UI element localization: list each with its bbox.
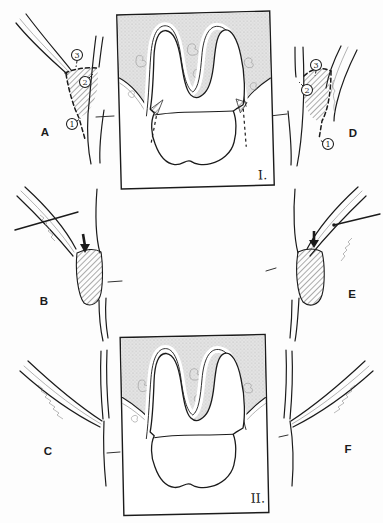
soft-tissue-outline-lower [106,298,108,338]
panel-label-f: F [344,443,351,455]
figure-label-1: I. [258,167,268,182]
panel-e: E [266,187,380,341]
marker-number: 2 [304,86,309,95]
panel-f: F [279,350,373,486]
marker-number: 1 [325,140,330,149]
panel-label-e: E [348,288,356,300]
root-pointer-line [108,281,122,282]
bone-defect-hatched [66,68,98,117]
lamina-dura-line [331,47,348,93]
root-pointer-line [96,116,114,117]
marker-number: 3 [313,61,318,70]
soft-tissue-outline-lower [288,111,291,165]
root-surface-below-crest [290,421,293,486]
molar-root-surface [294,189,298,253]
gingiva-outline [20,371,100,427]
instrument-tip [332,223,336,227]
figure-label-2: II. [250,491,265,506]
soft-tissue-outline-lower [100,110,104,163]
pdl-outline-upper [295,47,296,77]
down-arrow-icon [309,231,319,248]
lamina-dura-line [20,19,69,72]
gingiva-outline [293,371,373,427]
lamina-dura-line [21,191,74,252]
marker-leader-line [320,140,323,142]
marker-number: 1 [69,120,74,129]
panel-label-b: B [40,295,48,307]
molar-root-surface [290,351,292,419]
pdl-outline-upper [99,37,103,67]
root-pointer-line [107,452,120,453]
panel-label-a: A [41,126,49,138]
panel-label-c: C [44,445,52,457]
marker-circle-1: 1 [320,139,334,150]
framed-image-1: I. [117,11,275,189]
marker-number: 2 [82,78,87,87]
molar-root-surface [101,351,103,419]
lamina-dura-line [292,366,369,424]
root-pointer-line [266,268,276,271]
instrument-line [15,212,78,230]
root-pointer-line [279,435,288,437]
bone-defect-hatched [297,249,325,305]
bone-defect-hatched [76,249,102,305]
marker-leader-line [76,61,77,67]
adjacent-tooth-mesial-outline [291,361,365,421]
root-surface-below-defect [295,298,299,341]
instrument-line [334,214,380,225]
lamina-dura-line [24,366,101,424]
panel-d: 3 2 1 D [270,46,357,166]
marker-number: 3 [74,51,79,60]
molar-root-surface [297,47,304,166]
panel-c: C [20,350,120,486]
dental-osseous-defect-figure: 3 2 1 A 3 2 [0,0,383,523]
gingiva-outline [310,196,366,256]
adjacent-tooth-distal-outline [16,23,67,74]
soft-tissue-outline-lower [290,300,292,338]
root-surface-below-defect [99,300,103,341]
panel-b: B [15,187,122,341]
root-surface-below-crest [104,421,106,486]
framed-image-2: II. [120,334,269,515]
marker-leader-line [299,82,303,86]
panel-a: 3 2 1 A [16,14,114,164]
pdl-outline [107,350,109,418]
molar-root-surface [96,189,100,253]
marker-circle-3: 3 [72,50,83,68]
lamina-dura-zigzag [332,80,335,113]
adjacent-tooth-distal-outline [25,187,76,249]
panel-label-d: D [349,127,357,139]
marker-circle-1: 1 [67,118,82,130]
adjacent-tooth-distal-outline [28,361,102,421]
gingiva-outline [17,196,73,256]
lamina-dura-zigzag [341,238,352,261]
pdl-outline [284,350,286,418]
adjacent-tooth-mesial-outline [334,50,357,121]
figure-canvas: 3 2 1 A 3 2 [0,0,383,523]
